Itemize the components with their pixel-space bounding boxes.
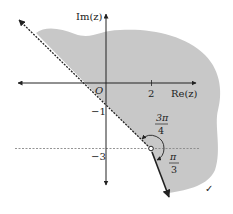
argand-diagram: Im(z) Re(z) O 2 −1 −3 3π 4 π 3 ✓ (0, 0, 233, 214)
x-tick-label-2: 2 (148, 88, 154, 99)
origin-label: O (95, 85, 103, 96)
y-tick-label-neg1: −1 (91, 106, 106, 117)
angle-label-3pi4-num: 3π (156, 112, 169, 123)
angle-label-pi3-num: π (169, 151, 177, 162)
x-axis-label: Re(z) (171, 88, 198, 99)
shaded-region (36, 29, 220, 193)
y-tick-label-neg3: −3 (91, 151, 106, 162)
angle-label-pi3-den: 3 (171, 164, 177, 175)
vertex-point (149, 146, 154, 151)
angle-label-3pi4-den: 4 (158, 125, 164, 136)
checkmark-icon: ✓ (205, 183, 213, 194)
y-axis-label: Im(z) (76, 11, 103, 22)
